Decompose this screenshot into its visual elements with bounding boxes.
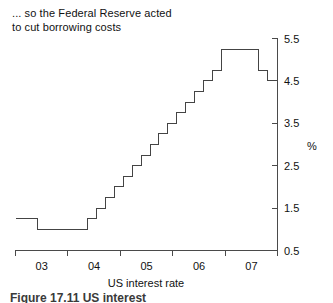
x-tick-label-06: 06 — [193, 260, 205, 272]
y-tick-label-3-5: 3.5 — [284, 117, 299, 129]
y-tick-label-1-5: 1.5 — [284, 202, 299, 214]
y-axis-unit-label: % — [307, 140, 317, 152]
x-axis-ticks — [16, 251, 278, 257]
x-axis-tick-labels: 03 04 05 06 07 — [36, 260, 258, 272]
x-tick-label-03: 03 — [36, 260, 48, 272]
figure-container: ... so the Federal Reserve acted to cut … — [0, 0, 333, 303]
y-tick-label-0-5: 0.5 — [284, 245, 299, 257]
x-tick-label-07: 07 — [245, 260, 257, 272]
y-axis-ticks — [272, 39, 277, 251]
y-axis-tick-labels: 5.5 4.5 3.5 2.5 1.5 0.5 — [284, 33, 299, 257]
y-tick-label-2-5: 2.5 — [284, 160, 299, 172]
x-tick-label-05: 05 — [140, 260, 152, 272]
interest-rate-series-line — [16, 49, 277, 229]
y-tick-label-5-5: 5.5 — [284, 33, 299, 45]
x-axis-title: US interest rate — [108, 277, 184, 289]
bottom-caption-fragment: Figure 17.11 US interest — [10, 292, 190, 303]
x-tick-label-04: 04 — [88, 260, 100, 272]
interest-rate-step-chart: 5.5 4.5 3.5 2.5 1.5 0.5 % 03 04 05 06 07 — [0, 0, 333, 303]
y-tick-label-4-5: 4.5 — [284, 75, 299, 87]
